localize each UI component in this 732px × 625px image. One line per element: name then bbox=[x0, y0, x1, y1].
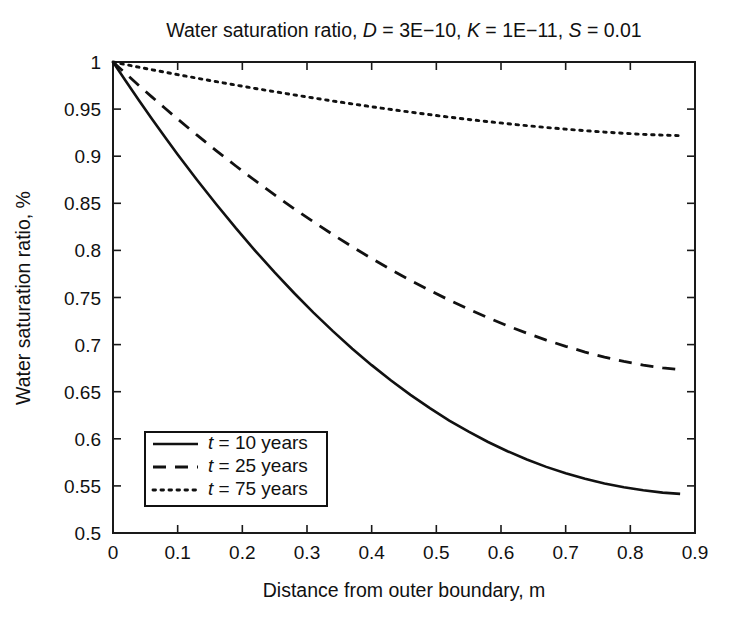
x-tick-label: 0.1 bbox=[164, 542, 190, 563]
series-line-3 bbox=[113, 62, 680, 136]
chart-title: Water saturation ratio, D = 3E−10, K = 1… bbox=[166, 19, 641, 41]
y-tick-label: 0.9 bbox=[75, 146, 101, 167]
line-chart: 00.10.20.30.40.50.60.70.80.90.50.550.60.… bbox=[0, 0, 732, 625]
legend-label-1: t = 10 years bbox=[208, 432, 308, 453]
y-tick-label: 0.75 bbox=[64, 288, 101, 309]
x-tick-label: 0.5 bbox=[423, 542, 449, 563]
x-tick-label: 0.9 bbox=[682, 542, 708, 563]
series-line-1 bbox=[113, 62, 680, 494]
y-tick-label: 0.95 bbox=[64, 99, 101, 120]
x-tick-label: 0 bbox=[108, 542, 119, 563]
y-tick-label: 0.8 bbox=[75, 240, 101, 261]
y-tick-label: 0.7 bbox=[75, 335, 101, 356]
x-tick-label: 0.8 bbox=[617, 542, 643, 563]
x-tick-label: 0.7 bbox=[552, 542, 578, 563]
legend-label-3: t = 75 years bbox=[208, 478, 308, 499]
x-tick-label: 0.3 bbox=[294, 542, 320, 563]
x-tick-label: 0.2 bbox=[229, 542, 255, 563]
y-tick-label: 0.5 bbox=[75, 523, 101, 544]
y-axis-title: Water saturation ratio, % bbox=[12, 191, 34, 405]
x-tick-label: 0.6 bbox=[488, 542, 514, 563]
x-tick-label: 0.4 bbox=[358, 542, 385, 563]
series-line-2 bbox=[113, 62, 680, 370]
y-tick-label: 0.6 bbox=[75, 429, 101, 450]
x-axis-title: Distance from outer boundary, m bbox=[263, 579, 546, 601]
legend-label-2: t = 25 years bbox=[208, 455, 308, 476]
y-tick-label: 1 bbox=[90, 52, 101, 73]
y-tick-label: 0.85 bbox=[64, 193, 101, 214]
legend: t = 10 yearst = 25 yearst = 75 years bbox=[145, 432, 327, 506]
y-tick-label: 0.65 bbox=[64, 382, 101, 403]
chart-figure: 00.10.20.30.40.50.60.70.80.90.50.550.60.… bbox=[0, 0, 732, 625]
y-tick-label: 0.55 bbox=[64, 476, 101, 497]
